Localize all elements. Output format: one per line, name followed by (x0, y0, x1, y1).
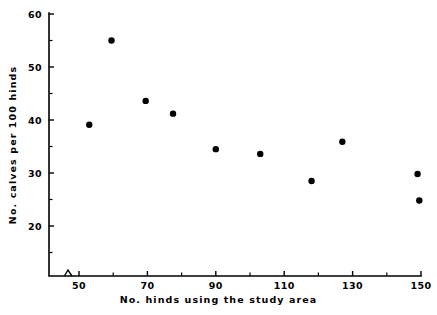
data-point (213, 146, 219, 152)
chart-background (0, 0, 437, 315)
x-tick-label: 110 (274, 280, 295, 291)
data-point (339, 139, 345, 145)
x-tick-label: 70 (140, 280, 154, 291)
data-point (257, 151, 263, 157)
data-point (86, 122, 92, 128)
x-axis-title: No. hinds using the study area (120, 294, 318, 305)
y-tick-label: 50 (28, 62, 42, 73)
data-point (108, 37, 114, 43)
data-point (414, 171, 420, 177)
x-tick-label: 50 (72, 280, 86, 291)
x-tick-label: 90 (209, 280, 223, 291)
data-point (170, 110, 176, 116)
y-tick-label: 30 (28, 168, 42, 179)
y-tick-label: 20 (28, 221, 42, 232)
chart-figure: 507090110130150 2030405060 No. hinds usi… (0, 0, 437, 315)
scatter-plot: 507090110130150 2030405060 No. hinds usi… (0, 0, 437, 315)
x-tick-label: 130 (342, 280, 363, 291)
data-point (308, 178, 314, 184)
y-axis-title: No. calves per 100 hinds (7, 66, 18, 224)
y-tick-label: 40 (28, 115, 42, 126)
data-point (142, 98, 148, 104)
x-tick-label: 150 (410, 280, 431, 291)
data-point (416, 197, 422, 203)
y-tick-label: 60 (28, 9, 42, 20)
